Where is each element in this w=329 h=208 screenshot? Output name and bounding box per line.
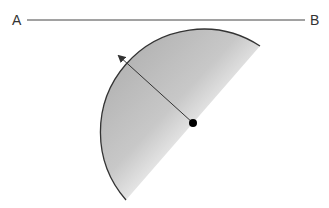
center-point: [189, 119, 197, 127]
label-a: A: [12, 13, 21, 27]
label-b: B: [310, 13, 319, 27]
diagram-canvas: [0, 0, 329, 208]
